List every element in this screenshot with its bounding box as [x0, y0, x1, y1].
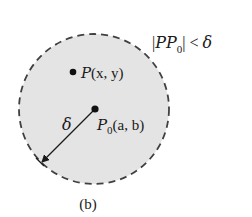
center-point-dot — [91, 105, 98, 112]
neighborhood-diagram: P(x, y) δ P0(a, b) |PP0|<δ (b) — [0, 0, 252, 217]
figure-caption: (b) — [79, 196, 97, 213]
distance-condition: |PP0|<δ — [152, 33, 212, 55]
point-p-label: P(x, y) — [80, 64, 124, 82]
point-p-dot — [70, 69, 77, 76]
radius-label: δ — [62, 115, 72, 134]
